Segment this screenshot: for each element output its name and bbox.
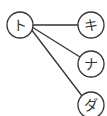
node-child-da: ダ — [78, 92, 104, 116]
node-root-label: ト — [13, 17, 27, 33]
node-child-label: キ — [84, 17, 98, 33]
node-child-label: ナ — [84, 56, 98, 72]
node-child-label: ダ — [84, 97, 98, 113]
edge-root-to-da — [31, 29, 82, 96]
edges — [31, 25, 82, 96]
node-child-ki: キ — [78, 12, 104, 38]
node-child-na: ナ — [78, 51, 104, 77]
node-root: ト — [7, 12, 33, 38]
edge-root-to-na — [32, 27, 80, 57]
tree-diagram: ト キ ナ ダ — [0, 0, 107, 116]
